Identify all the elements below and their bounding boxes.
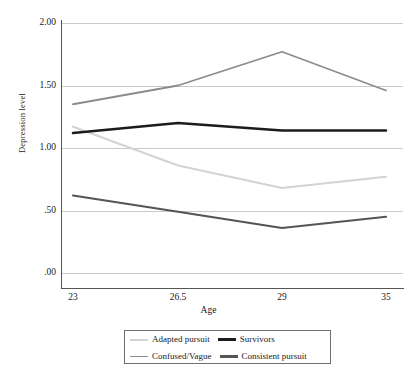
legend-item-adapted-pursuit[interactable]: Adapted pursuit [130,335,210,344]
legend-line-swatch [220,355,238,357]
series-line-confused-vague [73,52,386,105]
x-axis-title: Age [0,305,417,315]
legend-item-consistent-pursuit[interactable]: Consistent pursuit [220,352,307,361]
legend-label: Adapted pursuit [152,335,210,344]
legend-row: Adapted pursuitSurvivors [125,331,330,348]
legend-label: Confused/Vague [152,352,212,361]
legend-item-survivors[interactable]: Survivors [218,335,275,344]
x-axis-tick-label: 23 [51,292,95,302]
series-line-consistent-pursuit [73,196,386,229]
chart-legend: Adapted pursuitSurvivorsConfused/VagueCo… [124,330,331,364]
legend-line-swatch [130,339,148,341]
legend-row: Confused/VagueConsistent pursuit [125,348,330,365]
x-axis-tick-label: 35 [364,292,408,302]
legend-label: Consistent pursuit [242,352,307,361]
x-axis-tick-label: 26.5 [156,292,200,302]
series-line-adapted-pursuit [73,127,386,188]
series-lines-canvas [0,0,417,379]
legend-label: Survivors [240,335,275,344]
depression-level-line-chart: Depression level 2.001.501.00.50.00 2326… [0,0,417,379]
legend-line-swatch [130,356,148,358]
legend-line-swatch [218,338,236,341]
x-axis-tick-label: 29 [260,292,304,302]
legend-item-confused-vague[interactable]: Confused/Vague [130,352,212,361]
series-line-survivors [73,123,386,133]
